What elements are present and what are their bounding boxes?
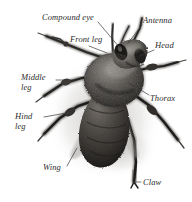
label-middle-leg: Middle leg <box>21 73 55 92</box>
label-claw: Claw <box>143 178 161 188</box>
label-head: Head <box>155 41 174 51</box>
label-compound-eye: Compound eye <box>42 13 94 23</box>
bee-anatomy-figure: Compound eye Antenna Front leg Head Midd… <box>0 0 192 202</box>
label-hind-leg: Hind leg <box>15 112 41 131</box>
label-antenna: Antenna <box>143 16 172 26</box>
label-front-leg: Front leg <box>70 35 104 45</box>
label-thorax: Thorax <box>150 94 175 104</box>
label-wing: Wing <box>43 163 61 173</box>
